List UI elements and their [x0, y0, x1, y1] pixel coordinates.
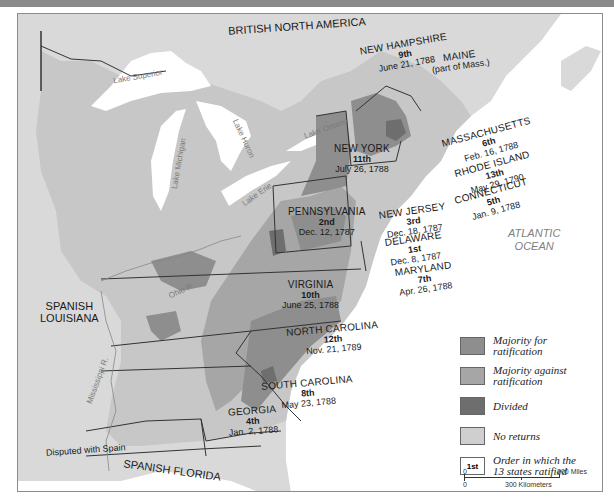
state-label-virginia: VIRGINIA10thJune 25, 1788: [282, 280, 339, 310]
swatch-divided: [460, 397, 485, 415]
swatch-majority-against: [460, 367, 485, 385]
label-spanish-louisiana: SPANISHLOUISIANA: [40, 300, 99, 324]
swatch-majority-for: [460, 337, 485, 355]
state-label-georgia: GEORGIA4thJan. 2, 1788: [227, 404, 279, 437]
swatch-no-returns: [460, 427, 485, 445]
state-label-pennsylvania: PENNSYLVANIA2ndDec. 12, 1787: [288, 207, 366, 237]
state-label-new-york: NEW YORK11thJuly 26, 1788: [334, 144, 390, 174]
map-legend: Majority forratification Majority agains…: [460, 335, 600, 485]
legend-item-no-returns: No returns: [460, 425, 600, 447]
top-texture-band: [0, 0, 614, 7]
legend-item-majority-for: Majority forratification: [460, 335, 600, 357]
label-atlantic-ocean: ATLANTICOCEAN: [508, 227, 560, 253]
legend-item-majority-against: Majority againstratification: [460, 365, 600, 387]
legend-item-divided: Divided: [460, 395, 600, 417]
scale-bar: 0 300 Miles 0 300 Kilometers: [463, 468, 593, 490]
